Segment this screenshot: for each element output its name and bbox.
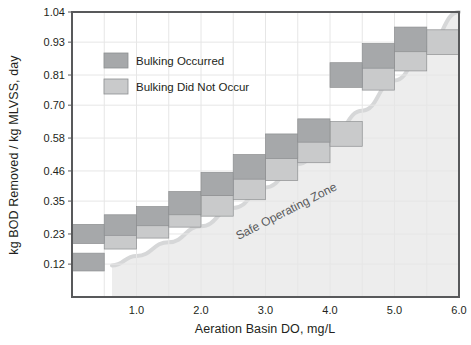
- chart-container: 1.02.03.04.05.06.0 0.120.230.350.460.580…: [0, 0, 471, 345]
- x-tick-label: 1.0: [129, 304, 144, 316]
- bod-loading-vs-do-chart: 1.02.03.04.05.06.0 0.120.230.350.460.580…: [0, 0, 471, 345]
- y-tick-label: 0.81: [44, 69, 65, 81]
- y-tick-label: 0.93: [44, 36, 65, 48]
- y-tick-label: 1.04: [44, 6, 65, 18]
- x-tick-label: 6.0: [451, 304, 466, 316]
- y-tick-label: 0.12: [44, 258, 65, 270]
- y-tick-label: 0.35: [44, 195, 65, 207]
- x-tick-label: 5.0: [387, 304, 402, 316]
- y-tick-label: 0.23: [44, 228, 65, 240]
- y-axis-title: kg BOD Removed / kg MLVSS, day: [7, 55, 21, 255]
- y-tick-label: 0.58: [44, 132, 65, 144]
- x-axis-title: Aeration Basin DO, mg/L: [195, 322, 336, 336]
- legend-swatch-bulking-did-not-occur: [104, 79, 128, 94]
- legend-label-bulking-did-not-occur: Bulking Did Not Occur: [136, 81, 249, 93]
- y-tick-label: 0.46: [44, 165, 65, 177]
- legend-label-bulking-occurred: Bulking Occurred: [136, 55, 224, 67]
- x-tick-label: 4.0: [322, 304, 337, 316]
- x-tick-label: 2.0: [193, 304, 208, 316]
- x-tick-label: 3.0: [258, 304, 273, 316]
- legend-swatch-bulking-occurred: [104, 53, 128, 68]
- y-tick-label: 0.70: [44, 99, 65, 111]
